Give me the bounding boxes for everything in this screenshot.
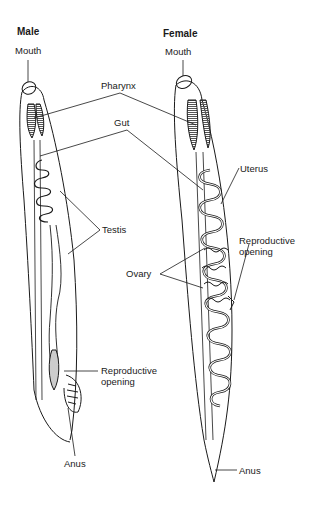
female-title: Female xyxy=(163,28,197,39)
testis-label: Testis xyxy=(102,224,126,235)
female-body xyxy=(174,73,234,482)
female-anus-label: Anus xyxy=(239,465,261,476)
ovary-label: Ovary xyxy=(126,268,151,279)
female-reproductive-opening-label: Reproductive opening xyxy=(239,235,295,257)
pharynx-label: Pharynx xyxy=(101,80,136,91)
female-mouth-label: Mouth xyxy=(165,46,191,57)
uterus-label: Uterus xyxy=(240,163,268,174)
male-mouth-label: Mouth xyxy=(15,45,41,56)
gut-label: Gut xyxy=(114,117,129,128)
male-body xyxy=(20,80,81,442)
male-title: Male xyxy=(17,26,39,37)
male-anus-label: Anus xyxy=(64,458,86,469)
male-reproductive-opening-label: Reproductive opening xyxy=(101,365,157,387)
